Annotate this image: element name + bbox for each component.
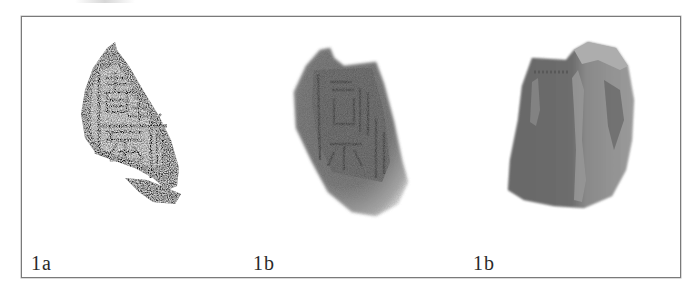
- panel-label-1b-back: 1b: [473, 253, 495, 273]
- figure-1b-back-image: [488, 30, 653, 225]
- figure-1b-front-image: [272, 32, 422, 227]
- sealing-back-graphic: [488, 30, 653, 225]
- figure-1a-rubbing-image: [55, 28, 205, 228]
- rubbing-graphic: [55, 28, 205, 228]
- cropped-caption-fragment: [75, 0, 135, 3]
- panel-label-1b-front: 1b: [253, 253, 275, 273]
- sealing-front-graphic: [272, 32, 422, 227]
- panel-label-1a: 1a: [31, 253, 52, 273]
